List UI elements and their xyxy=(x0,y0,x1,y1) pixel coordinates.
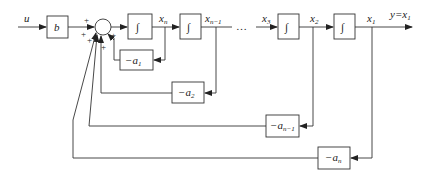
state-label: x1 xyxy=(366,12,375,26)
block-diagram: u b + + + + + ∫ xn ∫ xn−1 … x3 ∫ x2 xyxy=(0,0,423,179)
input-signal: u xyxy=(18,12,46,27)
gain-label: b xyxy=(54,21,60,33)
feedback-a-n: −an xyxy=(73,27,372,169)
input-label: u xyxy=(24,12,30,24)
state-label: xn xyxy=(158,12,168,26)
state-label: x3 xyxy=(261,12,271,26)
sum-sign: + xyxy=(87,35,92,45)
state-label: xn−1 xyxy=(204,12,222,26)
sum-sign: + xyxy=(84,15,89,25)
integrator-3: x3 ∫ x2 xyxy=(256,12,333,39)
integrator-4: ∫ x1 y=x1 xyxy=(334,8,412,39)
integrator-2: ∫ xn−1 xyxy=(180,12,232,39)
ellipsis: … xyxy=(236,20,247,32)
integrator-1: ∫ xn xyxy=(128,12,179,39)
output-label: y=x1 xyxy=(389,8,411,22)
summing-junction: + + + + + xyxy=(81,15,127,52)
sum-sign: + xyxy=(111,30,116,40)
state-label: x2 xyxy=(309,12,319,26)
sum-sign: + xyxy=(101,42,106,52)
sum-sign: + xyxy=(81,29,86,39)
